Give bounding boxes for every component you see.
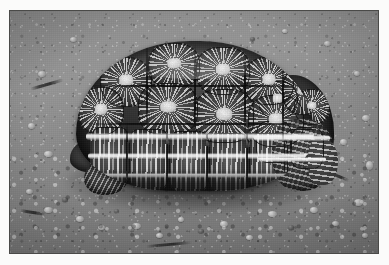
scute-vertebral-1 [148, 43, 200, 87]
scute-marginal-4 [208, 133, 250, 191]
figure-caption [9, 256, 379, 264]
photograph-canvas [10, 11, 378, 253]
rim-band-upper [86, 133, 314, 140]
figure-page [0, 0, 389, 265]
tortoise [58, 35, 336, 211]
photograph-frame [9, 10, 379, 254]
rim-band-mid [88, 153, 314, 159]
scute-marginal-3 [168, 131, 210, 191]
carapace [76, 41, 314, 191]
scute-vertebral-2 [196, 47, 250, 95]
